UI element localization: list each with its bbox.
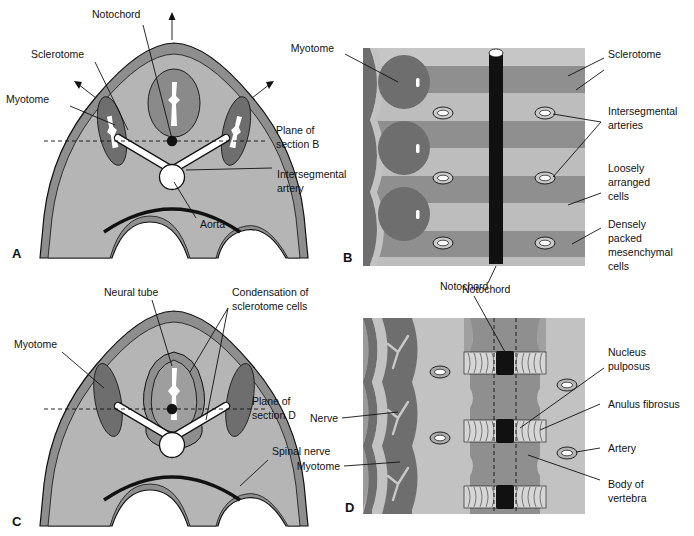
myotome-slit-b3: [416, 210, 420, 219]
label-loose-cells-1: Loosely: [608, 162, 645, 174]
label-plane-section-d-1: Plane of: [252, 395, 291, 407]
myotome-oval-b3: [378, 187, 430, 241]
label-anulus-fibrosus: Anulus fibrosus: [608, 398, 680, 410]
notochord-column-b: [489, 52, 503, 264]
myotome-oval-b2: [378, 121, 430, 175]
label-nucleus-pulposus-2: pulposus: [608, 360, 650, 372]
aorta-c: [160, 433, 185, 458]
band-light-b5: [363, 257, 585, 266]
label-sclerotome-b: Sclerotome: [608, 48, 661, 60]
panel-letter-a: A: [12, 246, 22, 261]
label-artery-d: Artery: [608, 442, 637, 454]
panel-c: Neural tube Condensation of sclerotome c…: [12, 286, 331, 529]
label-body-vertebra-2: vertebra: [608, 492, 647, 504]
label-intersegmental-arteries-b-2: arteries: [608, 119, 643, 131]
label-intersegmental-artery-a-1: Intersegmental: [277, 168, 346, 180]
label-dense-cells-1: Densely: [608, 218, 647, 230]
label-myotome-a: Myotome: [6, 93, 49, 105]
myotome-slit-b2: [416, 144, 420, 153]
label-spinal-nerve-c: Spinal nerve: [272, 445, 331, 457]
label-body-vertebra-1: Body of: [608, 478, 644, 490]
panel-letter-d: D: [345, 500, 354, 515]
label-intersegmental-arteries-b-1: Intersegmental: [608, 105, 677, 117]
label-dense-cells-2: packed: [608, 232, 642, 244]
label-intersegmental-artery-a-2: artery: [277, 182, 305, 194]
label-condensation-c-2: sclerotome cells: [232, 300, 307, 312]
panel-d: Notochord Nerve Myotome Nucleus pulposus…: [297, 280, 680, 515]
label-condensation-c-1: Condensation of: [232, 286, 309, 298]
label-loose-cells-2: arranged: [608, 176, 650, 188]
notochord-top-b: [489, 49, 503, 57]
panel-letter-c: C: [12, 514, 22, 529]
label-myotome-b: Myotome: [291, 42, 334, 54]
myotome-oval-b1: [378, 55, 430, 109]
ectoderm-wave-inner-b: [360, 48, 377, 266]
figure-root: Notochord Sclerotome Myotome Plane of se…: [0, 0, 694, 536]
label-dense-cells-3: mesenchymal: [608, 246, 673, 258]
label-myotome-c: Myotome: [14, 338, 57, 350]
panel-b: Myotome Sclerotome Intersegmental arteri…: [291, 42, 678, 295]
label-notochord-d: Notochord: [440, 280, 489, 292]
leader-notochord-b: [488, 266, 496, 283]
label-plane-section-b-1: Plane of: [276, 124, 315, 136]
label-plane-section-b-2: section B: [276, 138, 319, 150]
panel-letter-b: B: [343, 250, 352, 265]
label-nucleus-pulposus-1: Nucleus: [608, 346, 646, 358]
label-notochord-a: Notochord: [92, 8, 141, 20]
label-myotome-d: Myotome: [297, 460, 340, 472]
label-sclerotome-a: Sclerotome: [31, 48, 84, 60]
vertebral-column-d: [464, 318, 546, 514]
figure-svg: Notochord Sclerotome Myotome Plane of se…: [0, 0, 694, 536]
myotome-slit-b1: [416, 78, 420, 87]
label-dense-cells-4: cells: [608, 260, 629, 272]
label-aorta-a: Aorta: [200, 218, 225, 230]
aorta-a: [160, 165, 185, 190]
label-neural-tube-c: Neural tube: [104, 286, 158, 298]
label-loose-cells-3: cells: [608, 190, 629, 202]
label-plane-section-d-2: section D: [252, 409, 296, 421]
label-nerve-d: Nerve: [310, 412, 338, 424]
